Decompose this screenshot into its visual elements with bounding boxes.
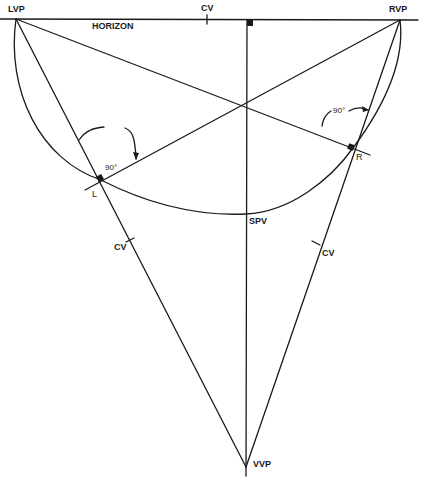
angle-arc-left — [79, 127, 104, 140]
horizon-line — [0, 19, 418, 20]
cv-tick-right — [312, 241, 320, 245]
label-point-r: R — [356, 153, 363, 162]
right-angle-marker-r — [347, 143, 355, 151]
line-rvp-l — [85, 20, 400, 190]
label-cv-horizon: CV — [201, 4, 214, 13]
diagram-lines — [0, 0, 432, 480]
label-angle-right: 90° — [333, 107, 345, 115]
label-cv-left: CV — [114, 243, 127, 252]
label-spv: SPV — [249, 217, 267, 226]
right-angle-marker-top — [247, 20, 253, 26]
three-point-perspective-diagram: LVP RVP CV HORIZON 90° 90° L R SPV CV CV… — [0, 0, 432, 480]
vertical-line — [246, 20, 247, 476]
label-angle-left: 90° — [105, 164, 117, 172]
line-rvp-vvp — [246, 20, 400, 467]
label-vvp: VVP — [253, 460, 271, 469]
angle-arc-right — [322, 111, 331, 126]
label-horizon: HORIZON — [92, 22, 134, 31]
label-cv-right: CV — [322, 249, 335, 258]
line-lvp-r — [16, 19, 370, 155]
arrowhead-left-a — [133, 152, 139, 160]
label-point-l: L — [92, 190, 97, 199]
label-rvp: RVP — [389, 5, 407, 14]
line-lvp-vvp — [16, 19, 246, 467]
label-lvp: LVP — [8, 5, 25, 14]
